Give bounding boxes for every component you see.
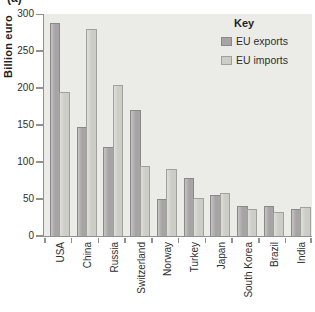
bar-chart-figure: (a) Billion euro Key EU exportsEU import… bbox=[0, 0, 315, 312]
x-label-turkey: Turkey bbox=[188, 242, 201, 272]
bar-eu-imports-usa bbox=[59, 92, 70, 236]
y-tick-label-150: 150 bbox=[4, 119, 34, 131]
bar-eu-imports-brazil bbox=[273, 212, 284, 236]
x-label-japan: Japan bbox=[215, 242, 228, 269]
legend-swatch-eu-imports bbox=[221, 56, 232, 65]
legend-title: Key bbox=[234, 17, 288, 29]
x-label-usa: USA bbox=[54, 242, 67, 263]
x-tick-0 bbox=[44, 238, 46, 243]
x-tick-6 bbox=[205, 238, 207, 243]
y-tick-100 bbox=[36, 161, 43, 163]
y-tick-label-50: 50 bbox=[4, 193, 34, 205]
bar-eu-imports-norway bbox=[166, 169, 177, 236]
y-tick-50 bbox=[36, 198, 43, 200]
x-tick-4 bbox=[151, 238, 153, 243]
legend-items: EU exportsEU imports bbox=[221, 35, 288, 66]
bar-eu-imports-china bbox=[86, 29, 97, 236]
y-tick-300 bbox=[36, 14, 43, 16]
y-tick-label-100: 100 bbox=[4, 156, 34, 168]
legend: Key EU exportsEU imports bbox=[221, 17, 288, 66]
legend-label-eu-exports: EU exports bbox=[236, 35, 288, 47]
plot-area: Key EU exportsEU imports 050100150200250… bbox=[43, 14, 312, 237]
y-tick-250 bbox=[36, 50, 43, 52]
x-label-switzerland: Switzerland bbox=[135, 242, 148, 294]
bar-eu-imports-south-korea bbox=[247, 209, 258, 236]
x-tick-5 bbox=[178, 238, 180, 243]
x-tick-8 bbox=[258, 238, 260, 243]
figure-label: (a) bbox=[7, 0, 22, 5]
x-tick-2 bbox=[98, 238, 100, 243]
x-label-south-korea: South Korea bbox=[242, 242, 255, 298]
y-tick-label-0: 0 bbox=[4, 230, 34, 242]
y-tick-label-250: 250 bbox=[4, 45, 34, 57]
legend-item-eu-exports: EU exports bbox=[221, 35, 288, 47]
y-tick-label-300: 300 bbox=[4, 8, 34, 20]
x-label-norway: Norway bbox=[161, 242, 174, 276]
x-tick-1 bbox=[71, 238, 73, 243]
y-tick-150 bbox=[36, 124, 43, 126]
x-tick-9 bbox=[285, 238, 287, 243]
y-tick-label-200: 200 bbox=[4, 82, 34, 94]
legend-swatch-eu-exports bbox=[221, 37, 232, 46]
x-label-russia: Russia bbox=[108, 242, 121, 273]
legend-label-eu-imports: EU imports bbox=[236, 54, 288, 66]
y-tick-200 bbox=[36, 87, 43, 89]
bar-eu-imports-switzerland bbox=[140, 166, 151, 236]
x-tick-10 bbox=[310, 238, 312, 243]
bar-eu-imports-japan bbox=[220, 193, 231, 236]
bar-eu-imports-russia bbox=[113, 85, 124, 236]
x-tick-3 bbox=[124, 238, 126, 243]
legend-item-eu-imports: EU imports bbox=[221, 54, 288, 66]
bar-eu-imports-turkey bbox=[193, 198, 204, 236]
y-tick-0 bbox=[36, 235, 43, 237]
x-label-india: India bbox=[295, 242, 308, 264]
x-label-china: China bbox=[81, 242, 94, 268]
bar-eu-imports-india bbox=[300, 207, 311, 236]
x-tick-7 bbox=[231, 238, 233, 243]
x-label-brazil: Brazil bbox=[268, 242, 281, 267]
